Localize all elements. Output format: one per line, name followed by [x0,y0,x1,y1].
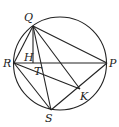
label-P: P [108,57,117,70]
geometry-diagram: Q R P S K H T [0,0,119,127]
label-Q: Q [24,11,33,24]
label-R: R [2,57,11,70]
label-H: H [23,51,34,64]
label-K: K [79,90,89,103]
segment-QP [33,26,107,63]
label-S: S [45,112,53,125]
segment-SP [51,63,107,110]
point-labels: Q R P S K H T [2,11,117,125]
